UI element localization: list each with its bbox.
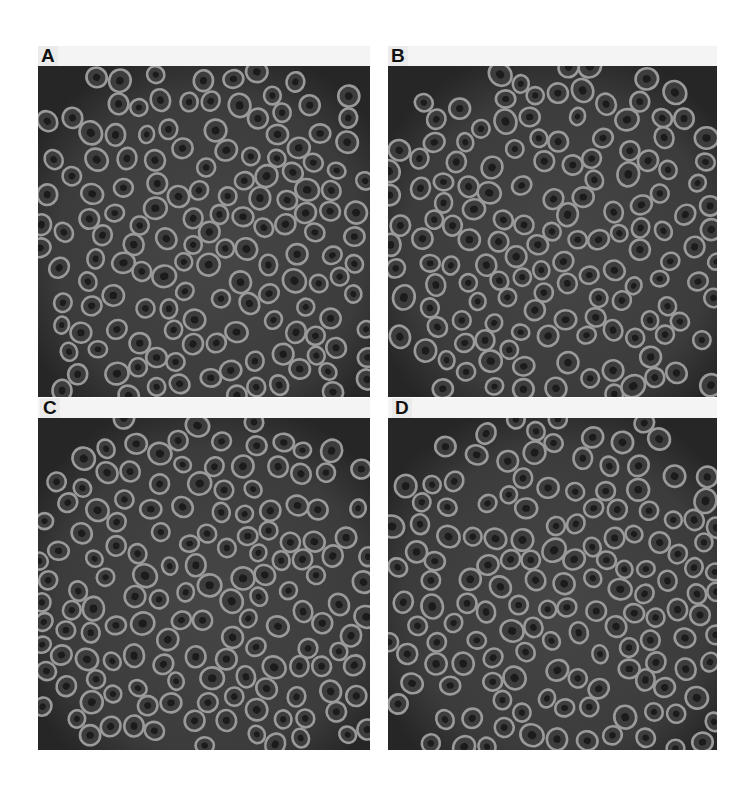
panel-label-strip xyxy=(38,398,370,418)
micrograph-panel-b xyxy=(388,66,717,397)
micrograph-panel-a xyxy=(38,66,370,397)
panel-label-strip xyxy=(388,398,717,418)
micrograph-panel-c xyxy=(38,418,370,750)
panel-label-c: C xyxy=(40,398,60,418)
micrograph-panel-d xyxy=(388,418,717,750)
panel-label-b: B xyxy=(388,46,408,66)
panel-label-strip xyxy=(38,46,370,66)
panel-label-strip xyxy=(388,46,717,66)
panel-label-a: A xyxy=(38,46,58,66)
panel-label-d: D xyxy=(392,398,412,418)
